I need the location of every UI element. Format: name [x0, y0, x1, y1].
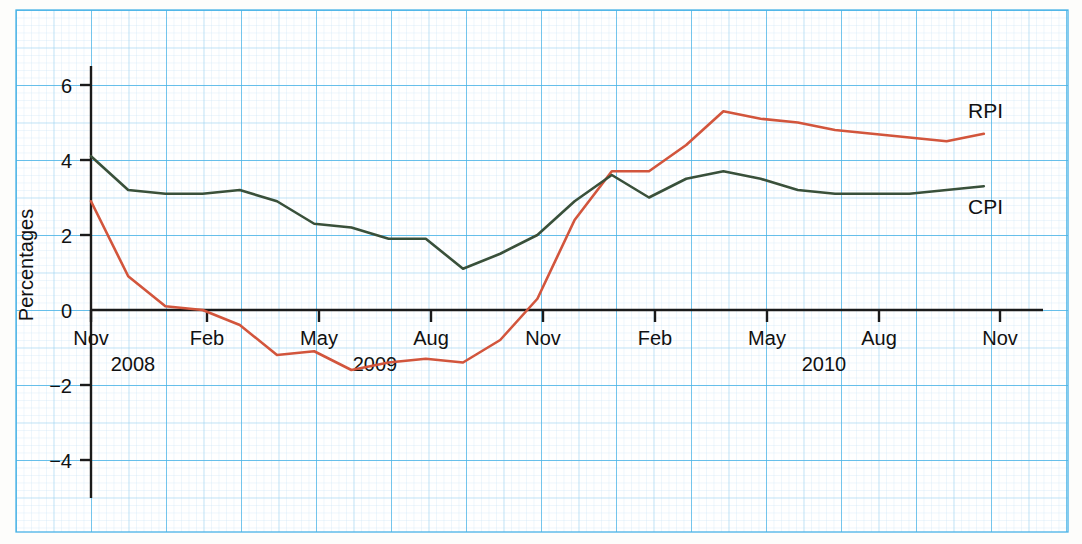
x-tick-label-7: Aug	[861, 327, 897, 349]
year-label-2010: 2010	[802, 353, 847, 375]
y-tick-label-6: 6	[61, 75, 72, 97]
x-tick-label-4: Nov	[525, 327, 561, 349]
year-label-2008: 2008	[111, 353, 156, 375]
series-label-rpi: RPI	[968, 99, 1003, 122]
chart-figure: 6 4 2 0 −2 −4 Percentages Nov Feb	[0, 0, 1082, 544]
line-chart: 6 4 2 0 −2 −4 Percentages Nov Feb	[0, 0, 1082, 544]
x-tick-label-2: May	[300, 327, 338, 349]
y-tick-label-0: 0	[61, 300, 72, 322]
grid-background	[16, 10, 1068, 532]
x-tick-label-3: Aug	[413, 327, 449, 349]
x-tick-label-5: Feb	[638, 327, 672, 349]
y-axis-title: Percentages	[15, 209, 37, 321]
series-label-cpi: CPI	[968, 195, 1003, 218]
y-tick-label-minus4: −4	[49, 450, 72, 472]
x-tick-label-1: Feb	[190, 327, 224, 349]
y-tick-label-minus2: −2	[49, 375, 72, 397]
x-tick-label-0: Nov	[73, 327, 109, 349]
y-tick-label-4: 4	[61, 150, 72, 172]
x-tick-label-6: May	[748, 327, 786, 349]
y-tick-label-2: 2	[61, 225, 72, 247]
x-tick-label-8: Nov	[982, 327, 1018, 349]
